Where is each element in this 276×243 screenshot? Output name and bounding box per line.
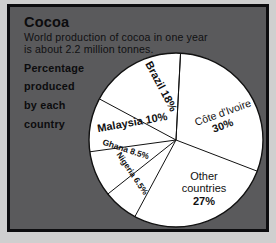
lead-line-2: produced	[24, 80, 234, 93]
subtitle-line-1: World production of cocoa in one year	[24, 31, 234, 43]
chart-panel: Cocoa World production of cocoa in one y…	[7, 4, 269, 232]
screenshot-root: Cocoa World production of cocoa in one y…	[0, 0, 276, 243]
page-title: Cocoa	[24, 15, 234, 30]
lead-line-1: Percentage	[24, 62, 234, 75]
text-block: Cocoa World production of cocoa in one y…	[24, 15, 234, 130]
lead-line-3: by each	[24, 99, 234, 112]
lead-line-4: country	[24, 118, 234, 131]
subtitle-line-2: is about 2.2 million tonnes.	[24, 43, 234, 55]
